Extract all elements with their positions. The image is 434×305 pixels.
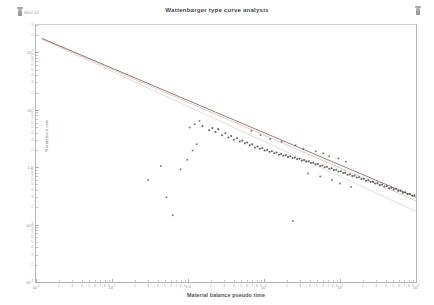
y-minor-tick-label: 2 (31, 205, 33, 209)
y-minor-tick (36, 173, 38, 174)
x-minor-tick-label: 6 (94, 284, 96, 288)
x-minor-tick-label: 9 (108, 284, 110, 288)
y-minor-tick-label: 9 (31, 168, 33, 172)
y-minor-tick-label: 5 (31, 240, 33, 244)
x-minor-tick-label: 8 (408, 284, 410, 288)
x-minor-tick (317, 280, 318, 282)
x-minor-tick (252, 280, 253, 282)
data-point (256, 145, 258, 147)
x-minor-tick (328, 280, 329, 282)
x-minor-tick-label: 9 (184, 284, 186, 288)
data-point (261, 147, 263, 149)
x-minor-tick (413, 280, 414, 282)
data-point (324, 166, 326, 168)
data-point (356, 177, 358, 179)
x-minor-tick-label: 4 (233, 284, 235, 288)
y-minor-tick (36, 170, 38, 171)
x-minor-tick (185, 280, 186, 282)
data-point (411, 195, 413, 197)
x-minor-tick (409, 280, 410, 282)
y-minor-tick-label: 5 (31, 125, 33, 129)
x-minor-tick (148, 280, 149, 282)
data-point (333, 169, 335, 171)
data-point (370, 181, 372, 183)
x-minor-tick (171, 280, 172, 282)
x-tick-label: 101 (261, 284, 267, 290)
data-point (331, 179, 333, 181)
type-curve-upper (42, 38, 416, 197)
y-tick-mark (36, 110, 39, 111)
x-minor-tick-label: 8 (256, 284, 258, 288)
y-minor-tick-label: 9 (31, 53, 33, 57)
y-minor-tick-label: 2 (31, 33, 33, 37)
data-point (310, 162, 312, 164)
y-minor-tick (36, 127, 38, 128)
data-point (342, 172, 344, 174)
x-minor-tick-label: 5 (316, 284, 318, 288)
data-point (331, 167, 333, 169)
data-point (347, 174, 349, 176)
data-point (337, 170, 339, 172)
x-minor-tick-label: 6 (322, 284, 324, 288)
data-point (402, 192, 404, 194)
x-tick-label: 10-2 (33, 284, 40, 290)
data-point (383, 186, 385, 188)
data-point (250, 130, 252, 132)
data-point (386, 185, 388, 187)
data-point (230, 135, 232, 137)
x-minor-tick-label: 5 (240, 284, 242, 288)
data-point (315, 150, 317, 152)
y-minor-tick-label: 6 (31, 121, 33, 125)
x-minor-tick (234, 280, 235, 282)
y-minor-tick (36, 140, 38, 141)
x-minor-tick (109, 280, 110, 282)
data-point (224, 132, 226, 134)
x-minor-tick-label: 8 (104, 284, 106, 288)
x-minor-tick (247, 280, 248, 282)
x-minor-tick (82, 280, 83, 282)
data-point (294, 157, 296, 159)
y-minor-tick-label: 6 (31, 63, 33, 67)
x-minor-tick-label: 3 (147, 284, 149, 288)
data-point (260, 134, 262, 136)
y-minor-tick (36, 265, 38, 266)
data-point (307, 172, 309, 174)
plot-area[interactable]: Normalized rate 1021011.010-110-22345678… (35, 24, 417, 283)
data-point (319, 175, 321, 177)
data-point (186, 159, 188, 161)
corner-pin-badge[interactable] (416, 8, 420, 15)
x-minor-tick (386, 280, 387, 282)
data-point (194, 123, 196, 125)
data-point (372, 181, 374, 183)
data-point (275, 151, 277, 153)
y-minor-tick-label: 4 (31, 245, 33, 249)
data-point (374, 182, 376, 184)
x-minor-tick-label: 2 (210, 284, 212, 288)
y-minor-tick (36, 58, 38, 59)
y-minor-tick (36, 207, 38, 208)
wattenbarger-chart-page: Well 01 Wattenbarger type curve analysis… (0, 0, 434, 305)
x-minor-tick-label: 6 (170, 284, 172, 288)
x-minor-tick (89, 280, 90, 282)
data-point (322, 152, 324, 154)
y-minor-tick-label: 9 (31, 225, 33, 229)
y-minor-tick (36, 176, 38, 177)
y-minor-tick (36, 112, 38, 113)
y-minor-tick-label: 6 (31, 178, 33, 182)
x-minor-tick (165, 280, 166, 282)
x-minor-tick-label: 3 (375, 284, 377, 288)
data-point (337, 157, 339, 159)
data-point (251, 143, 253, 145)
data-point (326, 166, 328, 168)
data-point (278, 154, 280, 156)
data-point (160, 165, 162, 167)
y-minor-tick (36, 25, 38, 26)
y-minor-tick (36, 55, 38, 56)
y-minor-tick-label: 5 (31, 182, 33, 186)
x-minor-tick-label: 2 (134, 284, 136, 288)
y-minor-tick-label: 4 (31, 188, 33, 192)
data-point (189, 127, 191, 129)
data-point (390, 187, 392, 189)
y-minor-tick (36, 61, 38, 62)
data-point (280, 153, 282, 155)
